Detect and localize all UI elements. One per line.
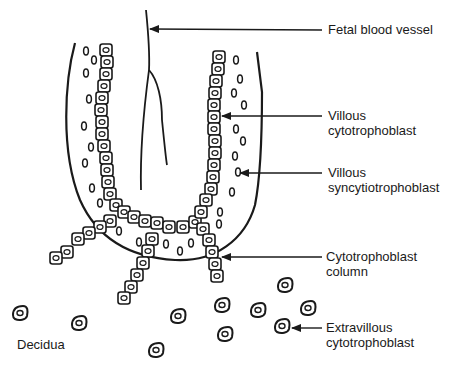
- label-cytotrophoblast-column: Cytotrophoblast column: [326, 249, 417, 279]
- fetal-blood-vessel: [141, 10, 167, 190]
- pointer-lines: [150, 29, 322, 328]
- cytotrophoblast-column-center: [118, 233, 158, 304]
- cytotrophoblast-layer-bottom: [118, 206, 207, 233]
- cytotrophoblast-column-right: [197, 223, 223, 282]
- label-villous-cytotrophoblast: Villous cytotrophoblast: [328, 108, 416, 138]
- cytotrophoblast-layer-right: [200, 51, 225, 206]
- pointer-fetal-blood-vessel: [150, 29, 322, 30]
- label-fetal-blood-vessel: Fetal blood vessel: [328, 22, 433, 37]
- label-extravillous-cytotrophoblast: Extravillous cytotrophoblast: [326, 320, 414, 350]
- cytotrophoblast-column-left: [50, 215, 116, 264]
- cytotrophoblast-layer-left: [95, 44, 122, 211]
- label-villous-syncytiotrophoblast: Villous syncytiotrophoblast: [328, 165, 439, 195]
- label-decidua: Decidua: [17, 337, 65, 352]
- placenta-villus-diagram: Fetal blood vessel Villous cytotrophobla…: [0, 0, 461, 366]
